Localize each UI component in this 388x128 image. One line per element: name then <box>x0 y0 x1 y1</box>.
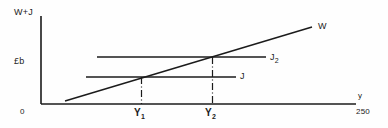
y-axis-label: W+J <box>14 8 33 17</box>
y1-tick-label: Y1 <box>134 108 145 120</box>
j2-curve-label: J2 <box>270 53 279 64</box>
diagram-canvas <box>0 0 388 128</box>
w-curve-label: W <box>318 22 327 31</box>
x-axis-max-tick-label: 250 <box>356 108 370 116</box>
y2-tick-label-subscript: 2 <box>212 113 216 120</box>
y-axis-tick-label-eb: £b <box>14 57 24 66</box>
x-axis-label: y <box>358 92 362 100</box>
j-curve-label: J <box>240 72 245 81</box>
y1-tick-label-subscript: 1 <box>141 113 145 120</box>
y2-tick-label: Y2 <box>205 108 216 120</box>
economics-diagram: W+J £b 0 W J2 J y 250 Y1 Y2 <box>0 0 388 128</box>
w-curve <box>65 27 312 101</box>
j2-curve-label-subscript: 2 <box>275 57 279 64</box>
y2-tick-label-text: Y <box>205 107 212 118</box>
y1-tick-label-text: Y <box>134 107 141 118</box>
origin-label: 0 <box>20 108 25 116</box>
